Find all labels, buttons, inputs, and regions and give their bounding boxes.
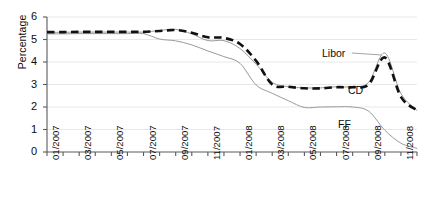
x-tick-label: 01/2007 (51, 125, 61, 160)
series-label-libor: Libor (322, 48, 345, 59)
y-axis-ticks (43, 17, 47, 152)
x-tick-label: 03/2007 (83, 125, 93, 160)
annotation-leader-lines (352, 53, 382, 55)
leader-line (352, 53, 382, 55)
chart-plot-area (0, 0, 430, 214)
y-tick-label: 3 (21, 79, 37, 90)
line-chart: Percentage 0123456 01/200703/200705/2007… (0, 0, 430, 214)
x-tick-label: 09/2008 (373, 125, 383, 160)
series-label-ff: FF (338, 119, 351, 130)
x-tick-label: 11/2008 (405, 126, 415, 160)
y-tick-label: 6 (21, 11, 37, 22)
x-tick-label: 05/2008 (308, 125, 318, 160)
x-tick-label: 07/2008 (341, 125, 351, 160)
y-tick-label: 4 (21, 56, 37, 67)
y-tick-label: 1 (21, 124, 37, 135)
x-tick-label: 09/2007 (180, 125, 190, 160)
x-axis-ticks (47, 152, 417, 156)
y-tick-label: 5 (21, 34, 37, 45)
x-tick-label: 11/2007 (212, 126, 222, 160)
series-line-cd (47, 30, 417, 110)
x-tick-label: 01/2008 (244, 125, 254, 160)
series-line-libor (47, 29, 417, 110)
y-tick-label: 0 (21, 146, 37, 157)
series-label-cd: CD (348, 85, 363, 96)
x-tick-label: 03/2008 (276, 125, 286, 160)
y-tick-label: 2 (21, 101, 37, 112)
x-tick-label: 05/2007 (115, 125, 125, 160)
x-tick-label: 07/2007 (148, 125, 158, 160)
